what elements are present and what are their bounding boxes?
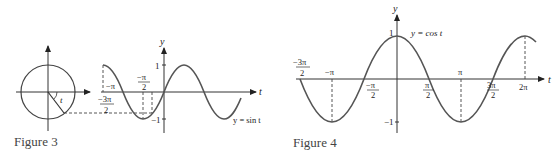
y-tick-neg1: −1 xyxy=(151,115,161,125)
x-tick-neg-pi2-num: −π xyxy=(366,80,376,90)
x-tick-2pi: 2π xyxy=(519,82,528,92)
figure-3-caption: Figure 3 xyxy=(14,134,58,149)
y-tick-1: 1 xyxy=(155,61,160,71)
figure-4-caption: Figure 4 xyxy=(293,135,337,150)
x-tick-pi: π xyxy=(458,67,463,77)
figures-canvas: t y t 1 −1 −π −3π 2 −π xyxy=(0,0,557,158)
t-axis-label: t xyxy=(259,86,262,97)
unit-circle: t xyxy=(16,46,90,131)
y-axis-label: y xyxy=(159,36,165,47)
x-tick-neg-pi2-den: 2 xyxy=(142,82,146,92)
function-label: y = sin t xyxy=(233,115,261,125)
figure-4: y t 1 −1 −3π 2 −π −π 2 π 2 π 3π 2 2π y =… xyxy=(293,3,551,150)
function-label: y = cos t xyxy=(410,28,443,38)
x-tick-pi2-den: 2 xyxy=(426,90,430,100)
figure-3: t y t 1 −1 −π −3π 2 −π xyxy=(14,36,262,149)
t-axis-label: t xyxy=(548,74,551,85)
x-tick-neg-pi: −π xyxy=(106,81,116,91)
x-tick-neg-3pi2-num: −3π xyxy=(293,57,307,67)
sine-graph: y t 1 −1 −π −3π 2 −π 2 y = sin t xyxy=(98,36,262,133)
x-tick-pi2-num: π xyxy=(425,80,430,90)
x-tick-neg-3pi2-den: 2 xyxy=(300,68,304,78)
x-tick-neg-pi: −π xyxy=(325,67,335,77)
x-tick-neg-pi2-num: −π xyxy=(137,72,147,82)
x-tick-neg-pi2-den: 2 xyxy=(371,90,375,100)
y-axis-label: y xyxy=(392,3,398,14)
x-tick-3pi2-den: 2 xyxy=(491,90,495,100)
angle-label: t xyxy=(60,95,63,105)
x-tick-neg-3pi2-den: 2 xyxy=(104,105,108,115)
y-tick-neg1: −1 xyxy=(384,117,394,127)
x-tick-neg-3pi2-num: −3π xyxy=(98,94,112,104)
x-tick-3pi2-num: 3π xyxy=(487,80,496,90)
